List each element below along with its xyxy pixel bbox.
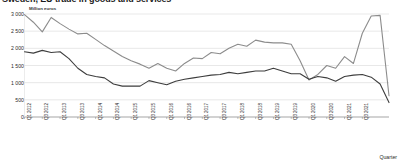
series-line <box>25 50 390 102</box>
x-axis-tick-label: Q3 2018 <box>258 103 263 120</box>
x-axis-tick-label: Q3 2015 <box>151 103 156 120</box>
x-axis-tick-label: Q1 2016 <box>169 103 174 120</box>
x-axis-tick-label: Q3 2019 <box>293 103 298 120</box>
x-axis-tick-label: Q3 2016 <box>187 103 192 120</box>
x-axis-tick-label: Q1 2018 <box>240 103 245 120</box>
gridlines <box>25 14 390 117</box>
x-axis-tick-label: Q3 2020 <box>329 103 334 120</box>
x-axis-title: Quarter <box>379 154 397 160</box>
x-axis-tick-label: Q1 2013 <box>62 103 67 120</box>
x-axis-tick-label: Q3 2017 <box>222 103 227 120</box>
series-lines <box>25 15 390 103</box>
x-axis-tick-label: Q1 2014 <box>98 103 103 120</box>
x-axis-tick-label: Q1 2015 <box>133 103 138 120</box>
series-line <box>25 15 390 96</box>
x-axis-tick-label: Q1 2012 <box>27 103 32 120</box>
x-axis-tick-label: Q1 2020 <box>311 103 316 120</box>
x-axis-tick-label: Q1 2017 <box>204 103 209 120</box>
x-axis-tick-label: Q3 2021 <box>364 103 369 120</box>
x-axis-tick-label: Q3 2012 <box>44 103 49 120</box>
x-axis-tick-label: Q3 2014 <box>115 103 120 120</box>
x-axis-tick-label: Q3 2013 <box>80 103 85 120</box>
plot-area <box>0 0 400 161</box>
chart-container: Sweden, EU trade in goods and services M… <box>0 0 400 161</box>
x-axis-tick-label: Q1 2021 <box>347 103 352 120</box>
x-axis-tick-label: Q1 2019 <box>275 103 280 120</box>
